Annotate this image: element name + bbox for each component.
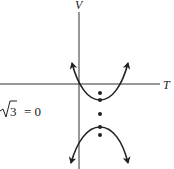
lower-branch-left: [71, 127, 100, 163]
hyperbola-diagram: V T 3 = 0: [0, 0, 174, 169]
t-axis-label: T: [163, 78, 171, 92]
lower-branch-right: [100, 127, 128, 163]
v-axis-label: V: [75, 0, 84, 12]
equation-rest: = 0: [24, 104, 41, 119]
upper-branch-left: [72, 63, 100, 100]
point-center: [98, 112, 102, 116]
point: [98, 91, 102, 95]
point-lower-vertex: [98, 125, 102, 129]
upper-branch-right: [100, 63, 128, 100]
point-upper-vertex: [98, 98, 102, 102]
equation-fragment: 3 = 0: [0, 101, 41, 119]
point: [98, 133, 102, 137]
radicand: 3: [10, 104, 17, 119]
